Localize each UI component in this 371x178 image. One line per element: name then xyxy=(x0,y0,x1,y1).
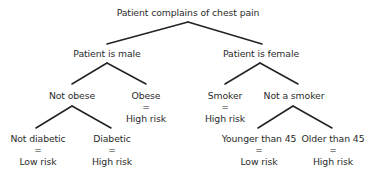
edge-not-obese-not-diabetic xyxy=(36,106,72,128)
equals-sign: = xyxy=(10,145,65,156)
node-male: Patient is male xyxy=(73,48,140,60)
equals-sign: = xyxy=(126,102,166,113)
equals-sign: = xyxy=(205,102,245,113)
edge-not-smoker-younger xyxy=(258,106,293,128)
node-obese-outcome: High risk xyxy=(126,113,166,125)
node-younger-outcome: Low risk xyxy=(222,156,297,168)
node-male-label: Patient is male xyxy=(73,48,140,60)
node-smoker-label: Smoker xyxy=(205,90,245,102)
equals-sign: = xyxy=(92,145,132,156)
node-not-obese: Not obese xyxy=(49,90,95,102)
node-not-smoker: Not a smoker xyxy=(264,90,325,102)
edge-male-obese xyxy=(107,63,146,84)
edge-female-smoker xyxy=(225,63,260,84)
node-obese-label: Obese xyxy=(126,90,166,102)
node-obese: Obese = High risk xyxy=(126,90,166,125)
node-root-label: Patient complains of chest pain xyxy=(117,7,260,19)
equals-sign: = xyxy=(222,145,297,156)
edge-root-male xyxy=(107,22,188,44)
node-diabetic-label: Diabetic xyxy=(92,133,132,145)
node-not-obese-label: Not obese xyxy=(49,90,95,102)
node-female: Patient is female xyxy=(223,48,299,60)
node-not-diabetic: Not diabetic = Low risk xyxy=(10,133,65,168)
node-younger-label: Younger than 45 xyxy=(222,133,297,145)
node-not-smoker-label: Not a smoker xyxy=(264,90,325,102)
edge-male-not-obese xyxy=(72,63,107,84)
node-female-label: Patient is female xyxy=(223,48,299,60)
node-smoker-outcome: High risk xyxy=(205,113,245,125)
node-not-diabetic-outcome: Low risk xyxy=(10,156,65,168)
edge-root-female xyxy=(188,22,262,44)
node-diabetic: Diabetic = High risk xyxy=(92,133,132,168)
node-older-outcome: High risk xyxy=(302,156,365,168)
node-older-label: Older than 45 xyxy=(302,133,365,145)
node-root: Patient complains of chest pain xyxy=(117,7,260,19)
node-smoker: Smoker = High risk xyxy=(205,90,245,125)
node-diabetic-outcome: High risk xyxy=(92,156,132,168)
node-younger-than-45: Younger than 45 = Low risk xyxy=(222,133,297,168)
edge-not-smoker-older xyxy=(293,106,332,128)
node-older-than-45: Older than 45 = High risk xyxy=(302,133,365,168)
edge-not-obese-diabetic xyxy=(72,106,111,128)
decision-tree-diagram: Patient complains of chest pain Patient … xyxy=(0,0,371,178)
equals-sign: = xyxy=(302,145,365,156)
node-not-diabetic-label: Not diabetic xyxy=(10,133,65,145)
edge-female-not-smoker xyxy=(260,63,298,84)
